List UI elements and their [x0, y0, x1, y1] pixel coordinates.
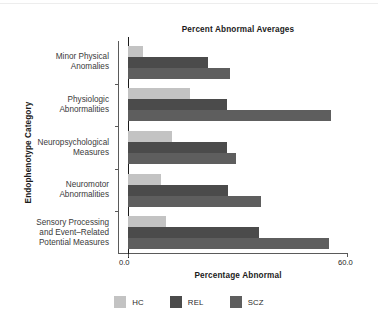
chart-figure: Percent Abnormal Averages Endophenotype …: [0, 0, 378, 326]
top-divider: [0, 3, 378, 4]
legend-swatch-rel: [170, 296, 182, 308]
bar-rel-3: [128, 142, 227, 153]
bar-hc-3: [128, 131, 172, 142]
legend-label: HC: [132, 298, 144, 307]
x-axis-title: Percentage Abnormal: [128, 271, 348, 280]
plot-area: [118, 41, 358, 254]
legend-item-hc: HC: [114, 296, 144, 308]
bar-scz-4: [128, 196, 261, 207]
chart-legend: HCRELSCZ: [0, 296, 378, 308]
y-axis-tick: [115, 84, 118, 85]
y-axis-line: [118, 41, 119, 254]
legend-swatch-scz: [230, 296, 242, 308]
category-label: Neuromotor Abnormalities: [0, 180, 113, 200]
bar-hc-5: [128, 216, 166, 227]
x-axis-line: [118, 253, 348, 254]
bar-scz-2: [128, 110, 331, 121]
legend-item-rel: REL: [170, 296, 204, 308]
legend-item-scz: SCZ: [230, 296, 264, 308]
bar-rel-1: [128, 57, 208, 68]
bar-rel-5: [128, 227, 259, 238]
y-axis-tick: [115, 169, 118, 170]
bar-rel-2: [128, 99, 227, 110]
bar-scz-5: [128, 238, 329, 249]
y-axis-tick: [115, 211, 118, 212]
bar-rel-4: [128, 185, 228, 196]
bar-hc-2: [128, 88, 190, 99]
category-label: Sensory Processing and Event–Related Pot…: [0, 218, 113, 248]
x-axis-tick-label: 0.0: [119, 258, 130, 267]
category-label: Minor Physical Anomalies: [0, 52, 113, 72]
bar-scz-1: [128, 68, 230, 79]
legend-swatch-hc: [114, 296, 126, 308]
chart-title: Percent Abnormal Averages: [128, 25, 348, 34]
y-axis-tick: [115, 126, 118, 127]
x-axis-tick-label: 60.0: [338, 258, 353, 267]
x-axis-tick: [347, 254, 348, 257]
x-axis-tick: [128, 254, 129, 257]
legend-label: SCZ: [248, 298, 264, 307]
category-label: Physiologic Abnormalities: [0, 95, 113, 115]
legend-label: REL: [188, 298, 204, 307]
category-label: Neuropsychological Measures: [0, 138, 113, 158]
bar-scz-3: [128, 153, 236, 164]
bar-hc-1: [128, 46, 143, 57]
bar-hc-4: [128, 174, 161, 185]
